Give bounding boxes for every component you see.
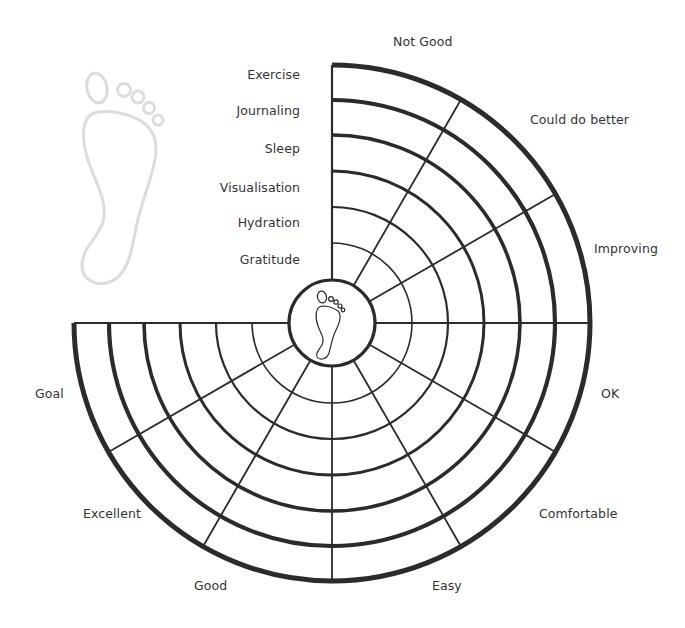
scale-label-comfortable: Comfortable (539, 508, 618, 521)
wheel-chart (0, 0, 685, 628)
scale-label-ok: OK (601, 388, 619, 401)
category-label-hydration: Hydration (190, 217, 300, 230)
category-label-visualisation: Visualisation (190, 182, 300, 195)
scale-label-not-good: Not Good (393, 36, 453, 49)
scale-label-excellent: Excellent (83, 508, 141, 521)
scale-label-easy: Easy (432, 580, 462, 593)
scale-label-good: Good (194, 580, 227, 593)
center-circle (289, 280, 375, 366)
scale-label-could-do-better: Could do better (530, 114, 629, 127)
scale-label-improving: Improving (594, 243, 658, 256)
category-label-journaling: Journaling (190, 105, 300, 118)
category-label-exercise: Exercise (190, 69, 300, 82)
habit-tracker-wheel: Exercise Journaling Sleep Visualisation … (0, 0, 685, 628)
scale-label-goal: Goal (35, 388, 64, 401)
footprint-outline-icon (82, 71, 163, 283)
category-label-sleep: Sleep (190, 143, 300, 156)
category-label-gratitude: Gratitude (190, 254, 300, 267)
